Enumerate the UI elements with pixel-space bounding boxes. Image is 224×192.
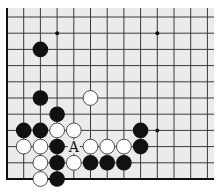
white-stone[interactable]: [66, 123, 81, 138]
black-stone[interactable]: [33, 123, 49, 139]
white-stone[interactable]: [33, 172, 48, 187]
white-stone[interactable]: [83, 91, 98, 106]
black-stone[interactable]: [83, 155, 99, 171]
white-stone[interactable]: [66, 155, 81, 170]
star-point: [155, 128, 159, 132]
star-point: [155, 31, 159, 35]
white-stone[interactable]: [33, 139, 48, 154]
black-stone[interactable]: [116, 155, 132, 171]
black-stone[interactable]: [133, 139, 149, 155]
black-stone[interactable]: [49, 139, 65, 155]
white-stone[interactable]: [16, 139, 31, 154]
white-stone[interactable]: [100, 139, 115, 154]
white-stone[interactable]: [117, 139, 132, 154]
black-stone[interactable]: [99, 155, 115, 171]
white-stone[interactable]: [33, 155, 48, 170]
star-point: [55, 31, 59, 35]
black-stone[interactable]: [49, 106, 65, 122]
go-board: A: [0, 0, 224, 192]
point-label-a: A: [68, 139, 80, 155]
white-stone[interactable]: [50, 123, 65, 138]
black-stone[interactable]: [49, 171, 65, 187]
black-stone[interactable]: [16, 123, 32, 139]
white-stone[interactable]: [83, 139, 98, 154]
black-stone[interactable]: [49, 155, 65, 171]
black-stone[interactable]: [133, 123, 149, 139]
black-stone[interactable]: [33, 90, 49, 106]
black-stone[interactable]: [33, 42, 49, 58]
